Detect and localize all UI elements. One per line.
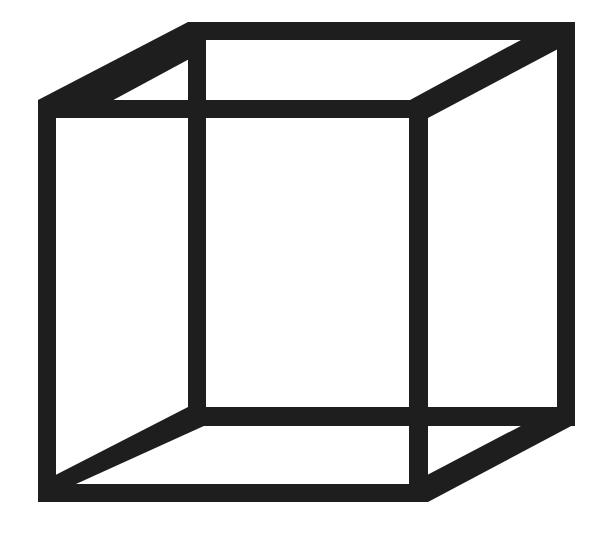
front-square <box>38 100 428 502</box>
front-bottom-edge <box>38 484 428 502</box>
back-left-edge <box>188 22 206 426</box>
diagonal-connectors <box>38 22 575 502</box>
necker-cube-diagram <box>0 0 614 541</box>
back-top-edge <box>188 22 575 40</box>
bottom-left-diagonal <box>38 407 206 484</box>
front-top-edge <box>38 100 428 118</box>
back-square <box>188 22 575 426</box>
front-right-edge <box>409 100 428 502</box>
back-right-edge <box>557 22 575 426</box>
front-left-edge <box>38 100 56 502</box>
back-bottom-edge <box>188 407 575 426</box>
